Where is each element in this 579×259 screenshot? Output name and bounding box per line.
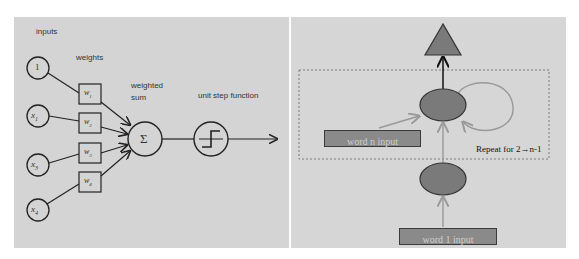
weighted-label: weighted	[131, 81, 163, 90]
weights-label: weights	[76, 53, 103, 62]
input-label-x3: x3	[31, 159, 38, 171]
word-1-input-box: word 1 input	[399, 228, 497, 245]
weight-label-3: w3	[84, 147, 92, 158]
perceptron-panel: inputs weights weighted sum unit step fu…	[14, 17, 289, 248]
repeat-label: Repeat for 2→n-1	[476, 144, 541, 154]
hidden-node-1	[420, 163, 466, 195]
input-label-x4: x4	[31, 204, 38, 216]
input-label-bias: 1	[35, 62, 40, 72]
word-n-input-label: word n input	[347, 136, 398, 147]
weight-label-1: w1	[84, 88, 92, 99]
output-triangle	[425, 24, 461, 55]
perceptron-diagram	[14, 17, 289, 248]
sum-label: sum	[131, 93, 146, 102]
hidden-node-n	[420, 89, 466, 121]
weight-label-4: w4	[84, 176, 92, 187]
inputs-label: inputs	[36, 27, 57, 36]
input-label-x1: x1	[31, 110, 38, 122]
unit-step-label: unit step function	[198, 91, 258, 100]
word-1-input-label: word 1 input	[422, 234, 473, 245]
word-n-input-box: word n input	[324, 130, 421, 147]
weight-label-2: w2	[84, 117, 92, 128]
step-function-node	[194, 122, 228, 156]
sigma-icon: Σ	[140, 131, 148, 147]
rnn-panel: word n input word 1 input Repeat for 2→n…	[291, 17, 566, 248]
